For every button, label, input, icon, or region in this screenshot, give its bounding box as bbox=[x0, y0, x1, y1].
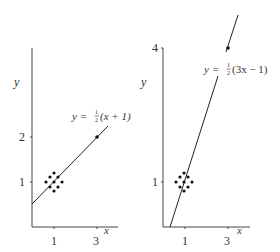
y-axis-label: y bbox=[140, 75, 147, 89]
x-tick-label-3: 3 bbox=[93, 234, 99, 248]
function-line-lower bbox=[170, 76, 218, 227]
equation-prefix: y = bbox=[71, 110, 87, 122]
highlight-point bbox=[226, 46, 230, 50]
y-axis-label: y bbox=[13, 75, 20, 89]
right-panel: y x 4 1 1 3 y = 1 2 (3x − 1) bbox=[140, 15, 268, 248]
equation-label: y = 1 2 (x + 1) bbox=[71, 109, 131, 123]
fraction-numerator: 1 bbox=[95, 109, 98, 115]
left-panel: y x 2 1 1 3 y = 1 2 (x + 1) bbox=[13, 48, 131, 248]
fraction-denominator: 2 bbox=[95, 117, 98, 123]
equation-body: (x + 1) bbox=[100, 110, 131, 123]
x-tick-label-3: 3 bbox=[224, 234, 230, 248]
x-axis-label: x bbox=[103, 224, 109, 236]
y-tick-label-1: 1 bbox=[19, 175, 25, 189]
diagram-canvas: y x 2 1 1 3 y = 1 2 (x + 1) bbox=[0, 0, 280, 252]
highlight-point bbox=[95, 135, 99, 139]
fraction-numerator: 1 bbox=[227, 62, 230, 68]
equation-label: y = 1 2 (3x − 1) bbox=[203, 62, 268, 76]
y-tick-label-2: 2 bbox=[19, 130, 25, 144]
y-tick-label-4: 4 bbox=[152, 41, 158, 55]
x-tick-label-1: 1 bbox=[51, 234, 57, 248]
x-axis-label: x bbox=[236, 224, 242, 236]
equation-body: (3x − 1) bbox=[232, 63, 268, 76]
x-tick-label-1: 1 bbox=[182, 234, 188, 248]
y-tick-label-1: 1 bbox=[152, 175, 158, 189]
fraction-denominator: 2 bbox=[227, 70, 230, 76]
equation-prefix: y = bbox=[203, 63, 219, 75]
point-cluster bbox=[174, 171, 193, 192]
